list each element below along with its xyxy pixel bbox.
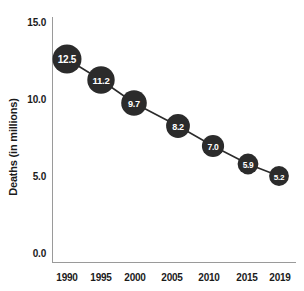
bubble-value-label: 8.2 [172, 122, 184, 132]
bubble-value-label: 12.5 [58, 54, 77, 65]
x-tick-label-1990: 1990 [56, 272, 78, 283]
x-tick-label-2005: 2005 [161, 272, 183, 283]
data-point-2005[interactable]: 8.2 [166, 114, 190, 138]
x-tick-label-2000: 2000 [124, 272, 146, 283]
y-tick-label-15: 15.0 [27, 17, 46, 28]
x-tick-label-1995: 1995 [90, 272, 112, 283]
data-point-2000[interactable]: 9.7 [121, 90, 147, 116]
chart-canvas: Deaths (in millions) 15.0 10.0 5.0 0.0 1… [0, 0, 304, 291]
x-tick-label-2015: 2015 [236, 272, 258, 283]
y-tick-label-10: 10.0 [27, 94, 46, 105]
x-tick-label-2019: 2019 [269, 272, 291, 283]
data-point-1990[interactable]: 12.5 [53, 45, 82, 74]
bubble-value-label: 5.2 [274, 173, 285, 182]
y-tick-label-5: 5.0 [33, 171, 47, 182]
x-tick-label-2010: 2010 [198, 272, 220, 283]
data-point-1995[interactable]: 11.2 [87, 66, 114, 93]
y-axis-title: Deaths (in millions) [7, 98, 19, 196]
bubble-value-label: 5.9 [243, 160, 254, 170]
bubble-line-chart: Deaths (in millions) 15.0 10.0 5.0 0.0 1… [0, 0, 304, 291]
bubble-value-label: 7.0 [207, 142, 219, 152]
data-point-2010[interactable]: 7.0 [202, 135, 224, 157]
data-point-2015[interactable]: 5.9 [238, 154, 259, 175]
bubble-value-label: 9.7 [128, 99, 140, 109]
y-tick-label-0: 0.0 [33, 248, 47, 259]
data-point-2019[interactable]: 5.2 [269, 166, 289, 186]
bubble-value-label: 11.2 [93, 75, 110, 86]
